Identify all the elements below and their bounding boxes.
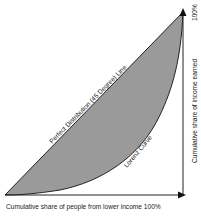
x-axis-arrow-icon <box>178 192 186 199</box>
lorenz-curve-diagram: Perfect Distribution (45 Degree) Line Lo… <box>0 0 201 223</box>
y-axis-arrow-icon <box>180 8 187 16</box>
x-axis-label: Cumulative share of people from lower in… <box>6 203 161 211</box>
y-axis-label: Cumulative share of income earned <box>191 59 198 163</box>
y-max-label: 100% <box>191 4 198 21</box>
